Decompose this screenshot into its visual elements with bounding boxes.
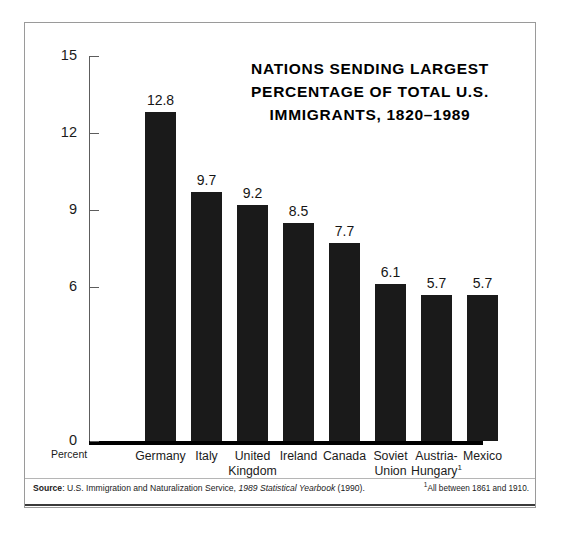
- source-year: (1990).: [335, 483, 365, 493]
- bar-value-label: 12.8: [147, 92, 174, 108]
- source-agency: U.S. Immigration and Naturalization Serv…: [67, 483, 238, 493]
- bar: 9.7: [191, 192, 222, 441]
- bar-value-label: 7.7: [335, 223, 354, 239]
- category-label: Mexico: [443, 449, 523, 464]
- source-label: Source: [33, 483, 62, 493]
- category-label-line: Mexico: [443, 449, 523, 464]
- y-tick-mark: [90, 56, 99, 57]
- category-footnote-marker: 1: [458, 463, 462, 472]
- bar: 6.1: [375, 284, 406, 441]
- footnote: 1All between 1861 and 1910.: [424, 484, 529, 493]
- y-tick-label: 9: [69, 201, 77, 217]
- bar: 12.8: [145, 112, 176, 441]
- y-tick-label: 12: [61, 124, 77, 140]
- bar-value-label: 9.7: [197, 172, 216, 188]
- footnote-text: All between 1861 and 1910.: [427, 484, 529, 493]
- y-tick-6: 6: [89, 287, 99, 288]
- footer-divider-top: [25, 478, 535, 479]
- y-tick-mark: [90, 287, 99, 288]
- y-tick-mark: [90, 133, 99, 134]
- bar: 9.2: [237, 205, 268, 441]
- x-axis-baseline: [89, 441, 483, 445]
- bar-value-label: 5.7: [473, 275, 492, 291]
- bar: 8.5: [283, 223, 314, 441]
- y-tick-mark: [90, 210, 99, 211]
- y-axis-label: Percent: [51, 448, 87, 460]
- bar-value-label: 6.1: [381, 264, 400, 280]
- y-tick-label: 6: [69, 278, 77, 294]
- bar: 5.7: [421, 295, 452, 441]
- bar: 5.7: [467, 295, 498, 441]
- plot-area: 1512960 Percent 12.89.79.28.57.76.15.75.…: [89, 56, 483, 441]
- y-tick-15: 15: [89, 56, 99, 57]
- source-note: Source: U.S. Immigration and Naturalizat…: [33, 483, 365, 493]
- category-label-line: Kingdom: [213, 464, 293, 479]
- y-tick-mark: [90, 441, 99, 442]
- y-tick-0: 0: [89, 441, 99, 442]
- bar: 7.7: [329, 243, 360, 441]
- y-tick-label: 0: [69, 432, 77, 448]
- source-publication: 1989 Statistical Yearbook: [238, 483, 335, 493]
- y-tick-label: 15: [61, 47, 77, 63]
- bar-value-label: 5.7: [427, 275, 446, 291]
- footer-divider-bottom: [25, 504, 535, 506]
- y-tick-12: 12: [89, 133, 99, 134]
- y-tick-9: 9: [89, 210, 99, 211]
- bar-value-label: 9.2: [243, 185, 262, 201]
- chart-figure: NATIONS SENDING LARGEST PERCENTAGE OF TO…: [24, 22, 536, 508]
- bar-value-label: 8.5: [289, 203, 308, 219]
- category-label-line: Hungary1: [397, 464, 477, 479]
- y-axis-line: [89, 56, 90, 441]
